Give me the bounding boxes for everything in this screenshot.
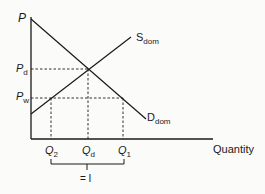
supply-demand-diagram bbox=[0, 0, 265, 194]
supply-curve bbox=[31, 37, 131, 114]
pw-label: Pw bbox=[16, 91, 29, 105]
demand-curve bbox=[31, 19, 146, 119]
imports-label: = I bbox=[80, 174, 91, 184]
q1-label: Q1 bbox=[118, 145, 131, 159]
pd-label: Pd bbox=[16, 63, 28, 77]
demand-label: Ddom bbox=[147, 112, 171, 126]
qd-label: Qd bbox=[82, 145, 95, 159]
supply-label: Sdom bbox=[136, 32, 159, 46]
quantity-axis-label: Quantity bbox=[213, 144, 254, 155]
imports-brace bbox=[51, 159, 124, 170]
price-axis-label: P bbox=[18, 12, 26, 24]
q2-label: Q2 bbox=[45, 145, 58, 159]
